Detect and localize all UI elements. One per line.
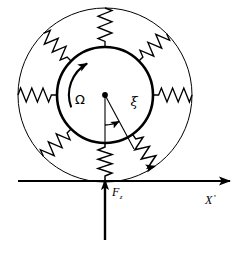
omega-label: Ω [75,92,85,107]
force-label-symbol: F [111,185,120,199]
spring-0deg [153,88,192,102]
force-label: Fz [111,185,123,201]
angle-arc [105,122,119,126]
figure-root: Ω ξ Fz X’ [0,0,248,253]
spring-270deg [98,143,112,181]
xi-label: ξ [130,94,138,109]
x-axis-label-prime: ’ [213,193,216,203]
center-point [102,92,108,98]
spring-90deg [98,8,112,47]
spring-180deg [18,88,57,102]
x-axis-label-symbol: X [204,193,213,207]
x-axis-label: X’ [204,193,216,207]
rotor-stator-diagram: Ω ξ Fz X’ [0,0,248,253]
force-label-subscript: z [119,193,123,201]
